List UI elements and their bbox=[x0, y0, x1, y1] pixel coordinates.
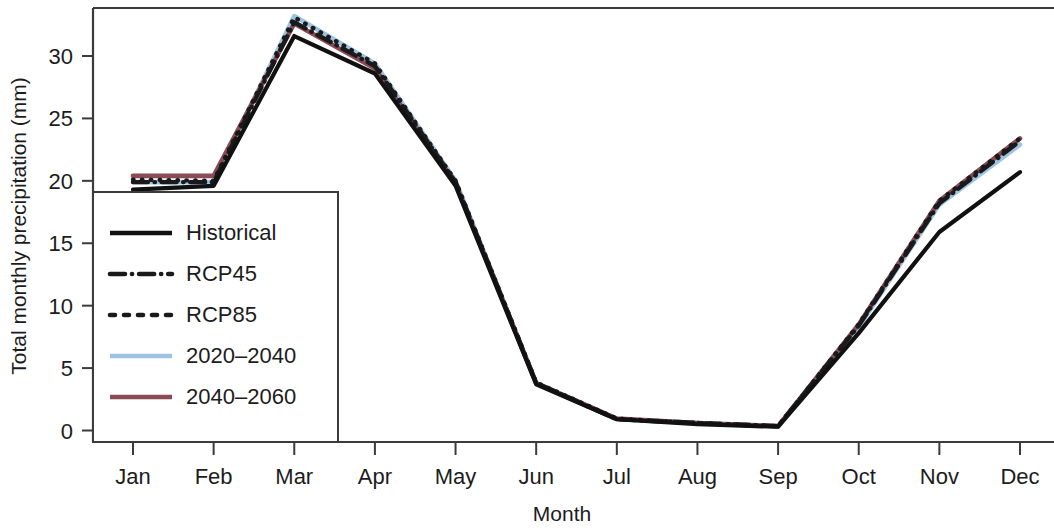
x-tick-label: Mar bbox=[275, 464, 313, 489]
x-axis-title: Month bbox=[533, 502, 591, 525]
legend-label: RCP85 bbox=[186, 302, 257, 327]
x-tick-label: Oct bbox=[842, 464, 876, 489]
x-tick-label: Jul bbox=[603, 464, 631, 489]
x-tick-label: Sep bbox=[759, 464, 798, 489]
x-tick-label: Dec bbox=[1000, 464, 1039, 489]
x-axis-ticks: JanFebMarAprMayJunJulAugSepOctNovDec bbox=[115, 442, 1039, 489]
x-tick-label: Nov bbox=[920, 464, 959, 489]
y-tick-label: 20 bbox=[49, 169, 73, 194]
precipitation-line-chart: 051015202530 JanFebMarAprMayJunJulAugSep… bbox=[0, 0, 1054, 530]
x-tick-label: Jan bbox=[115, 464, 150, 489]
chart-legend: HistoricalRCP45RCP852020–20402040–2060 bbox=[93, 192, 338, 442]
y-tick-label: 30 bbox=[49, 44, 73, 69]
x-tick-label: Apr bbox=[358, 464, 392, 489]
y-tick-label: 0 bbox=[61, 419, 73, 444]
chart-root: 051015202530 JanFebMarAprMayJunJulAugSep… bbox=[0, 0, 1054, 530]
y-tick-label: 10 bbox=[49, 294, 73, 319]
legend-label: Historical bbox=[186, 220, 276, 245]
legend-label: RCP45 bbox=[186, 261, 257, 286]
x-tick-label: Aug bbox=[678, 464, 717, 489]
y-tick-label: 5 bbox=[61, 356, 73, 381]
x-tick-label: Feb bbox=[195, 464, 233, 489]
x-tick-label: May bbox=[435, 464, 477, 489]
y-tick-label: 25 bbox=[49, 106, 73, 131]
y-axis-ticks: 051015202530 bbox=[49, 44, 93, 444]
y-axis-title: Total monthly precipitation (mm) bbox=[7, 77, 30, 375]
legend-label: 2040–2060 bbox=[186, 384, 296, 409]
y-tick-label: 15 bbox=[49, 231, 73, 256]
legend-label: 2020–2040 bbox=[186, 343, 296, 368]
x-tick-label: Jun bbox=[518, 464, 553, 489]
